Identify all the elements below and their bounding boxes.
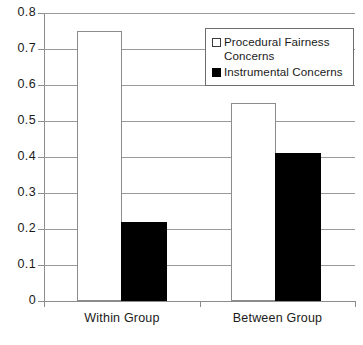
legend-label-line1: Procedural Fairness [224, 35, 330, 48]
bar-between-group-instrumental [275, 153, 321, 301]
bar-between-group-procedural-fairness [231, 103, 276, 301]
legend-entry-procedural-fairness: Procedural FairnessConcerns [212, 35, 348, 62]
x-tick-mark-left [44, 301, 45, 307]
y-tick-label-0.3: 0.3 [0, 185, 36, 199]
y-tick-label-0.2: 0.2 [0, 221, 36, 235]
bar-within-group-instrumental [121, 222, 167, 301]
gridline-0.8 [44, 13, 355, 14]
bar-chart: 0.8 0.7 0.6 0.5 0.4 0.3 0.2 0.1 0 [0, 0, 363, 345]
y-tick-label-0: 0 [0, 293, 36, 307]
y-axis-labels: 0.8 0.7 0.6 0.5 0.4 0.3 0.2 0.1 0 [0, 0, 36, 345]
y-tick-label-0.7: 0.7 [0, 41, 36, 55]
chart-legend: Procedural FairnessConcerns Instrumental… [205, 28, 354, 86]
x-axis-label-within-group: Within Group [44, 311, 200, 325]
open-square-swatch-icon [212, 38, 221, 47]
filled-square-swatch-icon [212, 68, 221, 77]
x-axis-label-between-group: Between Group [200, 311, 355, 325]
x-tick-mark-right [355, 301, 356, 307]
legend-entry-instrumental: Instrumental Concerns [212, 65, 348, 79]
legend-label-procedural-fairness: Procedural FairnessConcerns [224, 35, 330, 62]
y-tick-label-0.5: 0.5 [0, 113, 36, 127]
bar-within-group-procedural-fairness [77, 31, 122, 301]
y-tick-label-0.8: 0.8 [0, 5, 36, 19]
y-tick-label-0.4: 0.4 [0, 149, 36, 163]
y-tick-label-0.1: 0.1 [0, 257, 36, 271]
y-tick-label-0.6: 0.6 [0, 77, 36, 91]
x-tick-mark-middle [200, 301, 201, 307]
legend-label-instrumental: Instrumental Concerns [224, 65, 343, 79]
legend-label-line2: Concerns [224, 49, 274, 62]
